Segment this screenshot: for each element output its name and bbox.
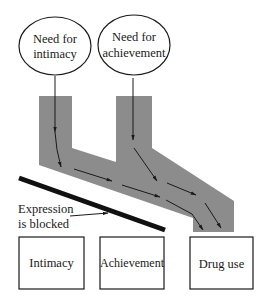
barrier-label-line2: is blocked — [18, 217, 70, 231]
outcome-drug-use-box: Drug use — [190, 237, 253, 289]
need-intimacy-line2: intimacy — [33, 47, 77, 61]
motivation-diagram: Need for intimacy Need for achievement E… — [0, 0, 267, 307]
outcome-drug-use-label: Drug use — [199, 257, 245, 271]
outcome-intimacy-label: Intimacy — [29, 256, 74, 270]
need-achievement-node: Need for achievement — [98, 15, 170, 75]
need-achievement-line2: achievement — [102, 46, 166, 60]
outcome-achievement-box: Achievement — [100, 237, 165, 289]
need-intimacy-node: Need for intimacy — [19, 17, 91, 75]
need-intimacy-line1: Need for — [33, 32, 78, 46]
barrier-label-line1: Expression — [18, 202, 74, 216]
barrier-pointer-arrow — [70, 213, 108, 216]
outcome-intimacy-box: Intimacy — [19, 237, 84, 289]
need-achievement-line1: Need for — [112, 30, 157, 44]
outcome-achievement-label: Achievement — [100, 256, 165, 270]
